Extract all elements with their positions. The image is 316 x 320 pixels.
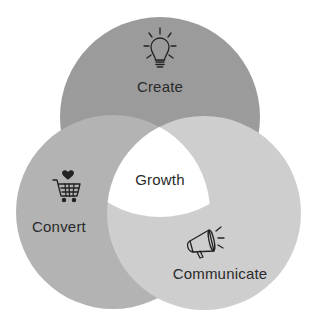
label-communicate: Communicate bbox=[173, 265, 268, 282]
venn-diagram bbox=[0, 0, 316, 320]
label-growth: Growth bbox=[135, 171, 185, 188]
label-convert: Convert bbox=[32, 218, 86, 235]
label-create: Create bbox=[137, 78, 183, 95]
